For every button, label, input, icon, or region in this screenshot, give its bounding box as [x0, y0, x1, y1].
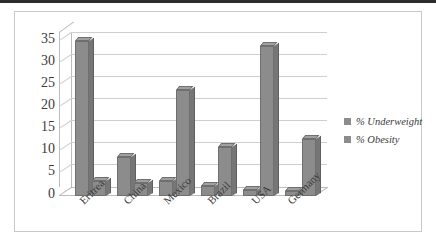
bar-front-face — [75, 41, 89, 196]
bar-group-eritrea — [75, 32, 117, 196]
bar-group-usa — [243, 32, 285, 196]
chart-legend: % Underweight % Obesity — [344, 112, 436, 148]
y-axis-tick: 5 — [21, 164, 55, 178]
chart-figure-frame: 35 30 25 20 15 10 5 0 — [14, 11, 422, 232]
bar-side-face — [106, 178, 111, 196]
bar-group-brazil — [201, 32, 243, 196]
legend-item-label: % Underweight — [356, 116, 422, 127]
x-axis: Eritrea China Mexico Brazil USA Germany — [59, 198, 339, 244]
plot-area — [59, 32, 327, 195]
legend-item-obesity[interactable]: % Obesity — [344, 130, 436, 148]
bar-group-mexico — [159, 32, 201, 196]
legend-item-underweight[interactable]: % Underweight — [344, 112, 436, 130]
bar-front-face — [260, 46, 274, 196]
y-axis-tick: 0 — [21, 187, 55, 201]
y-axis-tick: 35 — [21, 32, 55, 46]
chart-screenshot: 35 30 25 20 15 10 5 0 — [0, 0, 436, 244]
y-axis-tick: 10 — [21, 142, 55, 156]
y-axis: 35 30 25 20 15 10 5 0 — [15, 32, 55, 202]
top-rule-divider — [0, 0, 436, 3]
y-axis-tick: 30 — [21, 54, 55, 68]
square-marker-icon — [344, 136, 351, 143]
bar-side-face — [89, 38, 94, 196]
y-axis-tick: 15 — [21, 120, 55, 134]
bar-group-china — [117, 32, 159, 196]
legend-item-label: % Obesity — [356, 134, 399, 145]
bar-side-face — [316, 136, 321, 196]
bar-side-face — [148, 180, 153, 196]
square-marker-icon — [344, 118, 351, 125]
y-axis-tick: 25 — [21, 76, 55, 90]
bar-side-face — [232, 144, 237, 196]
bar-side-face — [274, 43, 279, 196]
bar-group-germany — [285, 32, 327, 196]
y-axis-tick: 20 — [21, 98, 55, 112]
bars-layer — [59, 32, 327, 196]
